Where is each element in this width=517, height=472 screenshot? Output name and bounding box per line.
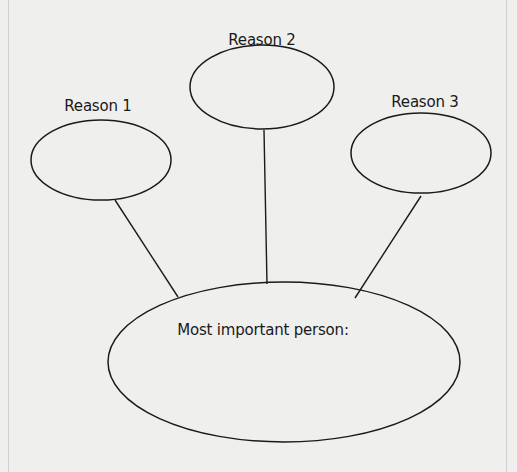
connector-line-2: [264, 130, 267, 284]
worksheet-page: Reason 1 Reason 2 Reason 3 Most importan…: [0, 0, 517, 472]
most-important-person-bubble[interactable]: [108, 282, 460, 442]
reason-3-bubble[interactable]: [351, 113, 491, 193]
reason-1-bubble[interactable]: [31, 120, 171, 200]
connector-line-3: [355, 196, 421, 298]
reason-1-label: Reason 1: [64, 97, 131, 115]
reason-3-label: Reason 3: [391, 93, 458, 111]
connector-line-1: [115, 200, 178, 297]
reason-2-bubble[interactable]: [190, 45, 334, 129]
